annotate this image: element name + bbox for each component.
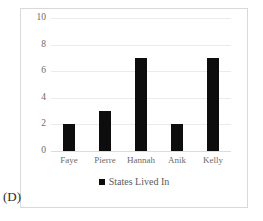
bar-slot — [87, 18, 123, 151]
bar-faye[interactable] — [63, 124, 75, 151]
x-tick-label-anik: Anik — [168, 153, 186, 167]
legend-label-states-lived-in: States Lived In — [109, 177, 170, 187]
y-tick-label-4: 4 — [41, 93, 46, 103]
x-tick-label-kelly: Kelly — [203, 153, 223, 167]
panel-letter: (D) — [3, 190, 21, 203]
bar-kelly[interactable] — [207, 58, 219, 151]
bar-slot — [159, 18, 195, 151]
bar-anik[interactable] — [171, 124, 183, 151]
bar-slot — [195, 18, 231, 151]
chart-legend: States Lived In — [21, 177, 247, 187]
bar-series-states-lived-in — [51, 18, 231, 151]
y-tick-label-0: 0 — [41, 146, 46, 156]
x-tick-label-hannah: Hannah — [127, 153, 155, 167]
bar-slot — [51, 18, 87, 151]
legend-square-marker-icon — [99, 179, 105, 185]
gridline-0 — [51, 151, 231, 152]
y-tick-label-10: 10 — [37, 13, 47, 23]
chart-frame: 0246810 FayePierreHannahAnikKelly States… — [20, 8, 248, 208]
x-tick-label-faye: Faye — [60, 153, 78, 167]
x-tick-label-pierre: Pierre — [94, 153, 116, 167]
x-axis-tick-labels: FayePierreHannahAnikKelly — [51, 153, 231, 167]
y-tick-label-2: 2 — [41, 120, 46, 130]
bar-pierre[interactable] — [99, 111, 111, 151]
bar-slot — [123, 18, 159, 151]
plot-area: 0246810 — [51, 18, 231, 151]
bar-hannah[interactable] — [135, 58, 147, 151]
y-tick-label-8: 8 — [41, 40, 46, 50]
y-tick-label-6: 6 — [41, 66, 46, 76]
